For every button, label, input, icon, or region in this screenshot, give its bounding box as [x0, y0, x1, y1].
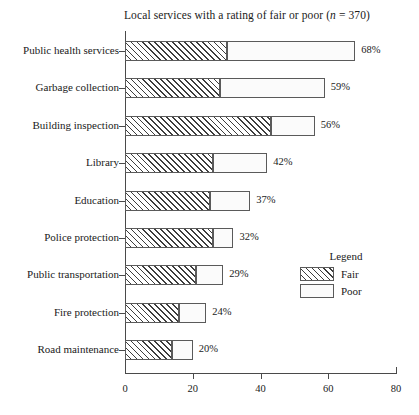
bar-segment-fair[interactable]	[125, 265, 196, 285]
x-axis-tick-label: 40	[255, 383, 266, 394]
bar-value-label: 24%	[212, 306, 231, 317]
bar-segment-fair[interactable]	[125, 153, 213, 173]
bar-segment-fair[interactable]	[125, 41, 227, 61]
chart-title-suffix: = 370)	[336, 9, 370, 21]
bar-value-label: 56%	[321, 119, 340, 130]
bar-row[interactable]: 24%	[0, 303, 419, 323]
bar-segment-poor[interactable]	[196, 265, 223, 285]
bar-row[interactable]: 20%	[0, 340, 419, 360]
x-axis-tick	[396, 367, 397, 374]
legend-swatch-poor-icon	[300, 284, 334, 298]
x-axis-tick-label: 80	[391, 383, 402, 394]
legend-item-fair[interactable]: Fair	[300, 267, 410, 281]
legend-title: Legend	[300, 250, 392, 262]
x-axis-tick-label: 0	[122, 383, 127, 394]
bar-segment-fair[interactable]	[125, 340, 172, 360]
x-axis-tick-label: 20	[188, 383, 199, 394]
bar-value-label: 37%	[256, 194, 275, 205]
bar-segment-fair[interactable]	[125, 303, 179, 323]
chart-title-prefix: Local services with a rating of fair or …	[124, 9, 330, 21]
bar-segment-fair[interactable]	[125, 116, 271, 136]
bar-value-label: 29%	[229, 268, 248, 279]
bar-segment-poor[interactable]	[213, 153, 267, 173]
chart-title: Local services with a rating of fair or …	[124, 8, 414, 22]
bar-row[interactable]: 37%	[0, 191, 419, 211]
legend-item-poor[interactable]: Poor	[300, 284, 410, 298]
bar-value-label: 42%	[273, 156, 292, 167]
bar-row[interactable]: 68%	[0, 41, 419, 61]
bar-segment-fair[interactable]	[125, 78, 220, 98]
bar-value-label: 59%	[331, 81, 350, 92]
legend-label-fair: Fair	[341, 268, 359, 280]
bar-value-label: 68%	[361, 44, 380, 55]
x-axis-tick	[261, 373, 262, 379]
bar-row[interactable]: 32%	[0, 228, 419, 248]
bar-segment-fair[interactable]	[125, 191, 210, 211]
bar-value-label: 32%	[239, 231, 258, 242]
bar-segment-poor[interactable]	[227, 41, 356, 61]
stacked-bar-chart: Local services with a rating of fair or …	[0, 0, 419, 415]
bar-segment-poor[interactable]	[271, 116, 315, 136]
bar-value-label: 20%	[199, 343, 218, 354]
x-axis-tick-label: 60	[323, 383, 334, 394]
x-axis-tick	[328, 373, 329, 379]
bar-row[interactable]: 56%	[0, 116, 419, 136]
bar-segment-poor[interactable]	[179, 303, 206, 323]
x-axis-tick	[193, 373, 194, 379]
bar-segment-poor[interactable]	[210, 191, 251, 211]
legend: Legend Fair Poor	[300, 250, 410, 301]
bar-segment-fair[interactable]	[125, 228, 213, 248]
legend-swatch-fair-icon	[300, 267, 334, 281]
bar-row[interactable]: 42%	[0, 153, 419, 173]
x-axis-tick	[125, 367, 126, 374]
bar-row[interactable]: 59%	[0, 78, 419, 98]
legend-label-poor: Poor	[341, 285, 362, 297]
bar-segment-poor[interactable]	[220, 78, 325, 98]
bar-segment-poor[interactable]	[172, 340, 192, 360]
bar-segment-poor[interactable]	[213, 228, 233, 248]
